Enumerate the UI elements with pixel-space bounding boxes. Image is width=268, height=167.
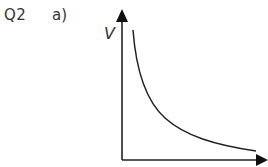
y-axis-arrow-icon bbox=[116, 9, 128, 22]
x-axis bbox=[122, 154, 268, 166]
y-axis bbox=[116, 9, 128, 160]
x-axis-arrow-icon bbox=[256, 154, 268, 166]
graph bbox=[0, 0, 268, 167]
curve bbox=[133, 30, 256, 151]
